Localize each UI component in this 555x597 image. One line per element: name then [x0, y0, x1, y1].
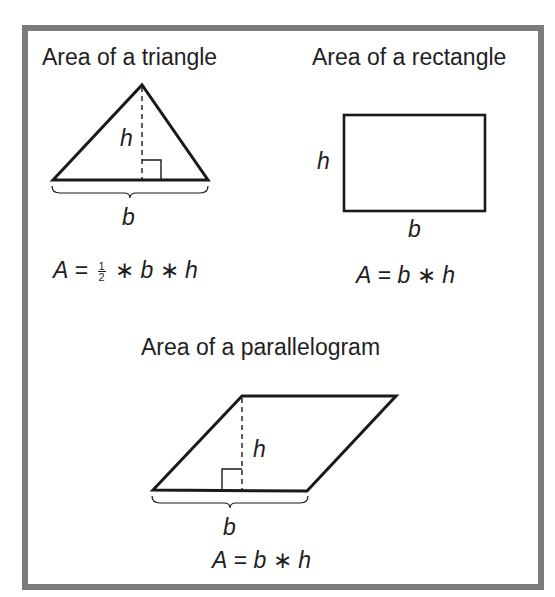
rectangle-height-label: h: [317, 148, 330, 175]
shapes-canvas: [0, 0, 555, 597]
rectangle-shape: [344, 115, 485, 211]
formula-height-var: h: [442, 262, 455, 288]
formula-equals: =: [378, 262, 391, 288]
formula-base-var: b: [254, 547, 267, 573]
formula-base-var: b: [140, 257, 153, 283]
formula-base-var: b: [398, 262, 411, 288]
rectangle-base-label: b: [408, 216, 421, 243]
formula-area-var: A: [356, 262, 371, 288]
parallelogram-base-label: b: [223, 514, 236, 541]
parallelogram-right-angle-marker: [222, 469, 242, 490]
parallelogram-base-brace: [152, 496, 308, 508]
rectangle-title: Area of a rectangle: [312, 44, 506, 71]
formula-times: ∗: [115, 257, 134, 283]
triangle-base-brace: [52, 186, 208, 198]
formula-area-var: A: [53, 257, 68, 283]
formula-times: ∗: [417, 262, 436, 288]
triangle-title: Area of a triangle: [42, 44, 217, 71]
formula-times: ∗: [160, 257, 179, 283]
formula-height-var: h: [185, 257, 198, 283]
formula-times: ∗: [273, 547, 292, 573]
formula-fraction-half: 12: [98, 261, 106, 282]
triangle-base-label: b: [122, 204, 135, 231]
rectangle-formula: A = b ∗ h: [356, 262, 455, 289]
fraction-denominator: 2: [98, 272, 106, 282]
formula-height-var: h: [298, 547, 311, 573]
parallelogram-title: Area of a parallelogram: [141, 334, 380, 361]
parallelogram-formula: A = b ∗ h: [212, 547, 311, 574]
triangle-height-label: h: [120, 125, 133, 152]
formula-area-var: A: [212, 547, 227, 573]
parallelogram-height-label: h: [253, 436, 266, 463]
formula-equals: =: [234, 547, 247, 573]
triangle-right-angle-marker: [142, 160, 161, 180]
triangle-formula: A = 12 ∗ b ∗ h: [53, 257, 198, 284]
formula-equals: =: [75, 257, 88, 283]
parallelogram-shape: [153, 396, 396, 491]
